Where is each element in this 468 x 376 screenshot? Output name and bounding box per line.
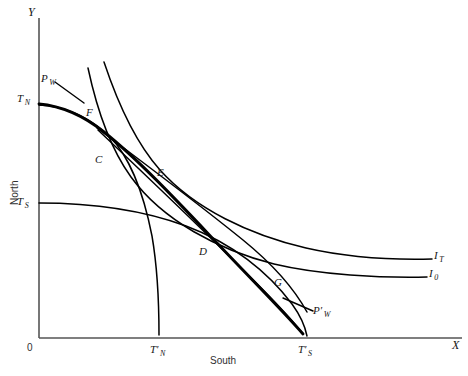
world-price-line-P-W [39,104,303,334]
label-Pp-W-sub: W [322,310,330,319]
indifference-curve-I-T [104,62,432,259]
point-label-F: F [86,107,93,118]
point-label-G: G [274,277,282,288]
diagram-canvas [0,0,468,376]
label-T-S-sub: S [23,201,29,210]
point-label-D: D [199,246,207,257]
label-Pp-W-base: P′ [313,304,322,316]
label-P-W: PW [41,73,56,87]
south-transformation-curve [39,203,307,336]
label-Tp-S-base: T′ [298,343,307,355]
label-Tp-S: T′S [298,344,312,358]
label-I-0: I0 [429,268,438,282]
origin-label: 0 [27,343,33,353]
label-T-S: TS [17,196,29,210]
label-T-N-sub: N [23,98,30,107]
p-w-leader-line [55,82,84,103]
offer-curve-diagram: Y X 0 North South TN TS T′N T′S PW P′W I… [0,0,468,376]
pp-w-leader-line [283,298,313,311]
label-T-N: TN [17,93,30,107]
point-label-C: C [95,154,102,165]
label-P-W-base: P [41,72,48,84]
label-Tp-N-sub: N [159,349,166,358]
indifference-curve-I-0 [88,68,427,277]
label-Tp-N-base: T′ [150,343,159,355]
y-axis-letter: Y [28,6,35,18]
label-P-W-sub: W [48,78,56,87]
x-axis-title: South [210,356,236,366]
label-Pp-W: P′W [313,305,330,319]
x-axis-letter: X [452,339,459,351]
point-label-E: E [157,167,164,178]
label-I-0-sub: 0 [433,273,439,282]
label-Tp-S-sub: S [307,349,313,358]
north-transformation-curve [39,105,159,335]
label-Tp-N: T′N [150,344,165,358]
label-I-T-sub: T [438,255,444,264]
label-I-T: IT [434,250,444,264]
